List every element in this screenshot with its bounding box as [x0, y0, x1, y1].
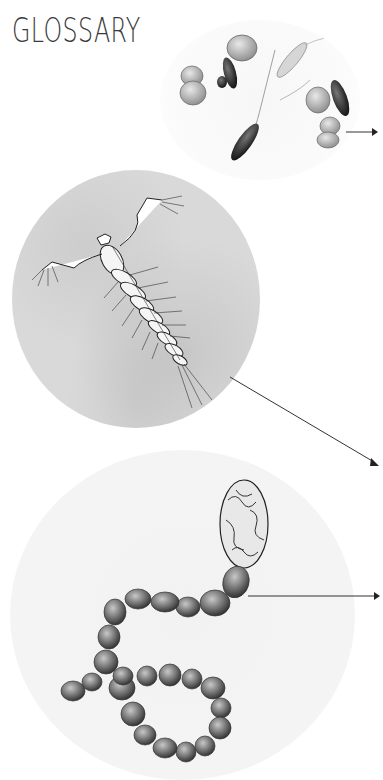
arrow-head-icon	[370, 458, 379, 466]
copepod-illustration	[12, 170, 260, 428]
copepod-drawing	[12, 170, 260, 428]
arrow-head-icon	[374, 592, 380, 600]
cyanobacteria-illustration	[10, 450, 355, 780]
plankton-drawing	[160, 20, 360, 180]
cyanobacteria-drawing	[10, 450, 355, 780]
arrow-head-icon	[372, 128, 378, 136]
plankton-illustration	[160, 20, 360, 180]
page-title: GLOSSARY	[12, 14, 141, 47]
